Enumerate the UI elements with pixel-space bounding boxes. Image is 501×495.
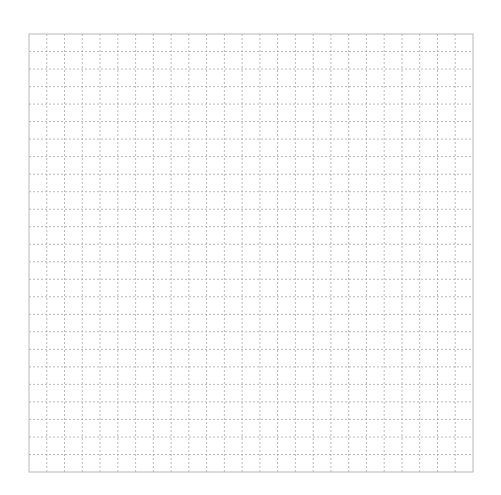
plot-area-border — [29, 34, 473, 472]
grid-lines — [29, 34, 473, 472]
chart-canvas — [0, 0, 501, 495]
